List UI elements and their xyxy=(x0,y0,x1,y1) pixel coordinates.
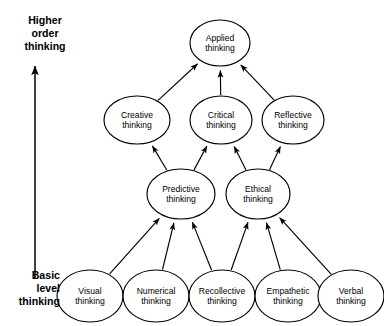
node-ethical[interactable]: Ethicalthinking xyxy=(226,169,290,219)
node-critical[interactable]: Criticalthinking xyxy=(190,96,252,144)
node-label-recollective-line2: thinking xyxy=(207,296,237,306)
edge-visual-to-predictive xyxy=(110,218,160,274)
edge-numerical-to-predictive xyxy=(163,223,174,270)
axis-text-layer: Higher order thinking Basic level thinki… xyxy=(19,14,66,307)
edge-predictive-to-critical xyxy=(194,146,207,170)
edge-recollective-to-predictive xyxy=(192,222,211,270)
node-recollective[interactable]: Recollectivethinking xyxy=(189,270,255,322)
node-label-applied-line2: thinking xyxy=(205,43,235,53)
edge-reflective-to-applied xyxy=(241,65,274,100)
node-label-visual-line2: thinking xyxy=(75,296,105,306)
nodes-layer: AppliedthinkingCreativethinkingCriticalt… xyxy=(57,20,384,322)
node-label-visual-line1: Visual xyxy=(78,286,101,296)
node-label-creative-line2: thinking xyxy=(122,120,152,130)
node-creative[interactable]: Creativethinking xyxy=(104,96,170,144)
edge-recollective-to-ethical xyxy=(231,222,248,270)
node-label-numerical-line2: thinking xyxy=(141,296,171,306)
node-label-empathetic-line1: Empathetic xyxy=(267,286,311,296)
node-visual[interactable]: Visualthinking xyxy=(57,270,123,322)
node-label-verbal-line1: Verbal xyxy=(339,286,363,296)
node-label-recollective-line1: Recollective xyxy=(199,286,246,296)
node-label-reflective-line2: thinking xyxy=(278,120,308,130)
node-label-ethical-line1: Ethical xyxy=(245,184,271,194)
node-label-predictive-line2: thinking xyxy=(166,194,196,204)
node-verbal[interactable]: Verbalthinking xyxy=(318,270,384,322)
node-numerical[interactable]: Numericalthinking xyxy=(123,270,189,322)
edge-predictive-to-creative xyxy=(152,146,166,170)
edge-empathetic-to-ethical xyxy=(266,223,280,270)
node-predictive[interactable]: Predictivethinking xyxy=(147,169,215,219)
edges-layer xyxy=(110,64,331,274)
node-label-numerical-line1: Numerical xyxy=(137,286,176,296)
node-label-critical-line2: thinking xyxy=(206,120,236,130)
edge-ethical-to-critical xyxy=(234,146,246,169)
node-label-verbal-line2: thinking xyxy=(336,296,366,306)
higher-order-label-line3: thinking xyxy=(24,40,65,52)
diagram-canvas: AppliedthinkingCreativethinkingCriticalt… xyxy=(0,0,384,326)
node-label-creative-line1: Creative xyxy=(121,110,153,120)
thinking-hierarchy-diagram: AppliedthinkingCreativethinkingCriticalt… xyxy=(0,0,384,326)
edge-ethical-to-reflective xyxy=(270,147,281,170)
higher-order-label-line1: Higher xyxy=(28,14,62,26)
basic-level-label-line1: Basic xyxy=(32,269,60,281)
node-reflective[interactable]: Reflectivethinking xyxy=(262,96,324,144)
higher-order-label-line2: order xyxy=(31,27,58,39)
node-label-ethical-line2: thinking xyxy=(243,194,273,204)
basic-level-label-line3: thinking xyxy=(19,295,60,307)
edge-creative-to-applied xyxy=(158,64,198,101)
node-label-empathetic-line2: thinking xyxy=(273,296,303,306)
node-label-critical-line1: Critical xyxy=(208,110,234,120)
node-label-applied-line1: Applied xyxy=(206,33,235,43)
node-empathetic[interactable]: Empatheticthinking xyxy=(255,270,321,322)
node-label-reflective-line1: Reflective xyxy=(274,110,312,120)
node-label-predictive-line1: Predictive xyxy=(162,184,200,194)
node-applied[interactable]: Appliedthinking xyxy=(190,20,250,66)
edge-verbal-to-ethical xyxy=(280,218,331,274)
basic-level-label-line2: level xyxy=(36,282,60,294)
